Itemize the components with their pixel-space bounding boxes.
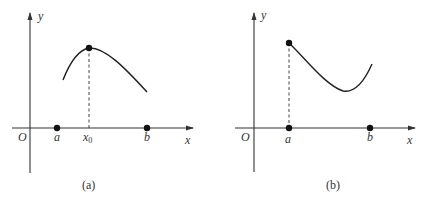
label-b: b — [144, 130, 150, 144]
caption-a: (a) — [82, 178, 95, 192]
origin-label: O — [241, 130, 250, 144]
panel-b: y x O a b (b) — [235, 8, 415, 192]
figure: y x O a x0 b (a) y x O a b (b) — [0, 0, 424, 205]
x-axis-label: x — [406, 133, 413, 147]
label-x0: x0 — [82, 130, 92, 145]
function-curve — [289, 43, 372, 91]
y-axis-label: y — [37, 9, 44, 23]
max-point — [86, 45, 92, 51]
function-curve — [63, 48, 147, 92]
origin-label: O — [18, 130, 27, 144]
point-a — [286, 125, 292, 131]
y-axis-label: y — [260, 8, 267, 22]
x-axis-label: x — [184, 133, 191, 147]
max-point — [286, 40, 292, 46]
label-a: a — [285, 132, 291, 146]
label-a: a — [54, 130, 60, 144]
caption-b: (b) — [326, 178, 340, 192]
panel-a: y x O a x0 b (a) — [12, 9, 193, 192]
label-b: b — [367, 130, 373, 144]
